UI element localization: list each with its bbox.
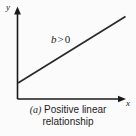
plot-svg: [0, 0, 136, 104]
figure-caption: (a) Positive linear relationship: [0, 104, 136, 128]
caption-tag: (a): [30, 104, 42, 115]
data-line-positive-slope: [18, 17, 126, 84]
caption-line-one-text: Positive linear: [44, 104, 106, 115]
slope-annotation: b>0: [51, 34, 70, 45]
y-axis-arrowhead-icon: [14, 7, 21, 15]
y-axis-label: y: [6, 3, 10, 12]
caption-line-two: relationship: [0, 116, 136, 128]
x-axis-arrowhead-icon: [118, 96, 126, 103]
caption-line-one: (a) Positive linear: [0, 104, 136, 116]
plot-area: y x b>0: [0, 0, 136, 104]
figure-positive-linear-relationship: y x b>0 (a) Positive linear relationship: [0, 0, 136, 136]
x-axis: [18, 96, 127, 103]
slope-value: 0: [65, 33, 71, 45]
slope-operator: >: [57, 33, 65, 45]
y-axis: [14, 7, 21, 100]
slope-symbol: b: [51, 33, 57, 45]
